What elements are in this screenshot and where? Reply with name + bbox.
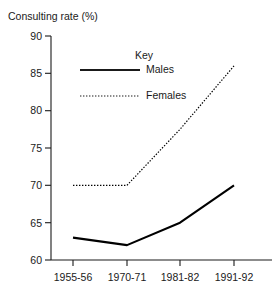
x-tick-label-1970-71: 1970-71 — [97, 272, 157, 283]
legend-label-males: Males — [146, 64, 174, 75]
plot-area — [0, 0, 280, 300]
legend-label-females: Females — [146, 90, 186, 101]
series-line-males — [73, 185, 234, 245]
x-axis-ticks — [73, 260, 234, 266]
x-tick-label-1981-82: 1981-82 — [150, 272, 210, 283]
legend-title: Key — [124, 50, 164, 61]
y-tick-label-70: 70 — [16, 180, 42, 191]
series-line-females — [73, 66, 234, 185]
x-tick-label-1955-56: 1955-56 — [43, 272, 103, 283]
y-tick-label-85: 85 — [16, 68, 42, 79]
y-tick-label-75: 75 — [16, 143, 42, 154]
chart-container: Consulting rate (%) — [0, 0, 280, 300]
x-tick-label-1991-92: 1991-92 — [204, 272, 264, 283]
y-tick-label-60: 60 — [16, 255, 42, 266]
y-tick-label-90: 90 — [16, 31, 42, 42]
y-axis-ticks — [45, 36, 51, 260]
y-tick-label-65: 65 — [16, 218, 42, 229]
y-tick-label-80: 80 — [16, 105, 42, 116]
